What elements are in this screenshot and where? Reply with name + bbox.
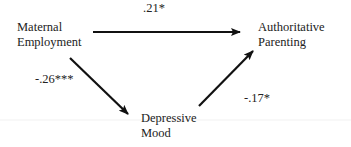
node-label-line2: Employment <box>17 35 82 50</box>
coef-employment-to-parenting: .21* <box>143 1 165 15</box>
node-label-line2: Parenting <box>258 35 325 50</box>
node-authoritative-parenting: Authoritative Parenting <box>258 20 325 50</box>
node-label-line1: Depressive <box>141 111 197 126</box>
node-maternal-employment: Maternal Employment <box>17 20 82 50</box>
arrow-employment-to-mood <box>70 58 128 114</box>
node-label-line2: Mood <box>141 126 197 141</box>
node-label-line1: Maternal <box>17 20 82 35</box>
coef-employment-to-mood: -.26*** <box>35 72 74 86</box>
coef-mood-to-parenting: -.17* <box>244 91 270 105</box>
node-label-line1: Authoritative <box>258 20 325 35</box>
node-depressive-mood: Depressive Mood <box>141 111 197 141</box>
